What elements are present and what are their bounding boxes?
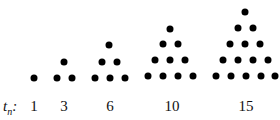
value-label: 10 <box>165 97 180 115</box>
dot <box>227 41 234 48</box>
dot <box>235 57 242 64</box>
dot <box>54 75 61 82</box>
dot <box>243 73 250 80</box>
value-label: 1 <box>30 97 38 115</box>
triangular-numbers-diagram: tn: 1361015 <box>0 0 280 120</box>
dot <box>213 73 220 80</box>
dot <box>235 25 242 32</box>
dot <box>228 73 235 80</box>
dot <box>167 26 174 33</box>
dot <box>265 57 272 64</box>
dot <box>122 75 129 82</box>
value-label: 15 <box>239 97 254 115</box>
dot <box>250 25 257 32</box>
dot <box>114 59 121 66</box>
dot <box>175 73 182 80</box>
dot <box>145 73 152 80</box>
tn-label: tn: <box>3 97 17 120</box>
dot <box>69 75 76 82</box>
dot <box>106 42 113 49</box>
dot <box>242 41 249 48</box>
dot <box>258 73 265 80</box>
dot <box>190 73 197 80</box>
dot <box>182 57 189 64</box>
dot <box>272 73 279 80</box>
dot <box>99 59 106 66</box>
dot <box>61 59 68 66</box>
dot <box>31 75 38 82</box>
dot <box>175 41 182 48</box>
dot <box>167 57 174 64</box>
dot <box>160 41 167 48</box>
dot <box>242 9 249 16</box>
dot <box>160 73 167 80</box>
value-label: 3 <box>60 97 68 115</box>
dot <box>107 75 114 82</box>
dot <box>152 57 159 64</box>
value-label: 6 <box>106 97 114 115</box>
dot <box>257 41 264 48</box>
dot <box>92 75 99 82</box>
dot <box>220 57 227 64</box>
dot <box>250 57 257 64</box>
